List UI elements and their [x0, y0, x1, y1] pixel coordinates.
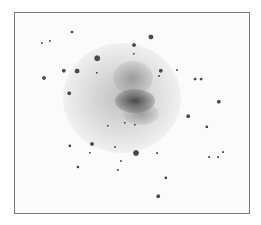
star [205, 125, 208, 128]
star [156, 194, 160, 198]
star [62, 69, 66, 73]
star [89, 152, 91, 154]
star [90, 142, 94, 146]
star [76, 165, 79, 168]
star [94, 55, 100, 61]
star [217, 156, 219, 158]
star [156, 152, 158, 154]
star [42, 76, 46, 80]
galaxy-photograph [14, 12, 250, 214]
star [176, 69, 178, 71]
star [194, 78, 197, 81]
star [200, 78, 203, 81]
star [132, 43, 136, 47]
image-frame [14, 12, 250, 214]
star [158, 75, 160, 77]
star [133, 150, 139, 156]
star [75, 69, 80, 74]
star [70, 30, 73, 33]
star [41, 42, 43, 44]
star [117, 169, 119, 171]
star [68, 144, 71, 147]
galaxy-lower-arm [123, 103, 159, 125]
star [222, 151, 224, 153]
star [148, 34, 153, 39]
star [67, 91, 71, 95]
star [164, 176, 167, 179]
star [217, 100, 221, 104]
star [114, 146, 116, 148]
star [49, 40, 51, 42]
star [208, 156, 210, 158]
star [186, 114, 190, 118]
star [120, 160, 122, 162]
